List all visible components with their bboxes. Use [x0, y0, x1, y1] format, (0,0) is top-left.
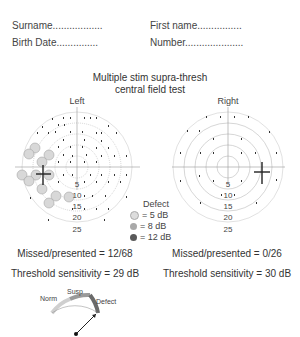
right-ring-labels: 5 10 15 20 25 [224, 180, 233, 234]
legend-dot-medium-icon [130, 223, 137, 230]
legend-label: = 12 dB [140, 232, 171, 242]
gauge-label-susp: Susp [67, 288, 83, 295]
left-ring-labels: 5 10 15 20 25 [73, 180, 82, 234]
legend-item-12db: = 12 dB [130, 232, 171, 242]
legend-item-5db: = 5 dB [130, 210, 168, 220]
svg-text:5: 5 [75, 180, 80, 189]
gauge-label-defect: Defect [96, 298, 116, 305]
svg-text:15: 15 [73, 202, 82, 211]
right-missed-presented: Missed/presented = 0/26 [152, 248, 300, 259]
visual-field-charts: 5 10 15 20 25 5 10 15 20 25 [0, 0, 300, 337]
svg-text:25: 25 [224, 225, 233, 234]
defect-gauge [52, 295, 98, 336]
right-threshold-sensitivity: Threshold sensitivity = 30 dB [152, 268, 300, 279]
legend-dot-light-icon [130, 211, 139, 220]
legend-dot-dark-icon [130, 234, 137, 241]
gauge-pivot [74, 332, 78, 336]
right-blind-spot-cross-icon [254, 162, 270, 184]
svg-text:5: 5 [226, 180, 231, 189]
legend-label: = 5 dB [142, 210, 168, 220]
legend-label: = 8 dB [140, 221, 166, 231]
legend-title: Defect [143, 199, 169, 209]
svg-text:20: 20 [73, 213, 82, 222]
svg-text:10: 10 [73, 191, 82, 200]
gauge-label-norm: Norm [40, 295, 57, 302]
legend-item-8db: = 8 dB [130, 221, 166, 231]
left-missed-presented: Missed/presented = 12/68 [0, 248, 150, 259]
left-missed-points [17, 143, 74, 208]
svg-text:10: 10 [224, 191, 233, 200]
gauge-needle [76, 314, 96, 334]
left-threshold-sensitivity: Threshold sensitivity = 29 dB [0, 268, 150, 279]
svg-text:25: 25 [73, 225, 82, 234]
svg-text:15: 15 [224, 202, 233, 211]
svg-text:20: 20 [224, 213, 233, 222]
